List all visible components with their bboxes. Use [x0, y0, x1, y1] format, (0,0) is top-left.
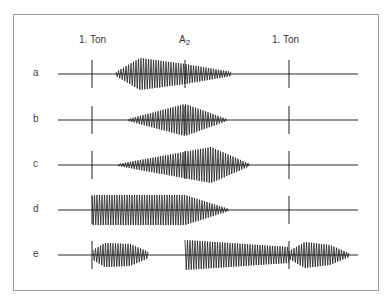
row-label-b: b [33, 113, 39, 124]
waveform-plot [0, 0, 392, 305]
row-label-e: e [33, 248, 39, 259]
waveform-e-1 [185, 240, 289, 270]
row-label-c: c [33, 158, 38, 169]
waveform-d-0 [92, 195, 228, 225]
waveform-c-0 [118, 147, 249, 183]
row-label-d: d [33, 203, 39, 214]
row-label-a: a [33, 67, 39, 78]
